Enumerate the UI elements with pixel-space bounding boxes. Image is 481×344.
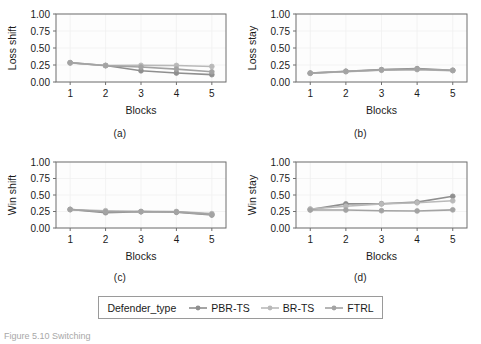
legend-entry-ftrl[interactable]: FTRL — [324, 302, 373, 314]
svg-text:3: 3 — [379, 88, 385, 99]
svg-text:4: 4 — [414, 88, 420, 99]
svg-text:0.75: 0.75 — [271, 173, 291, 184]
svg-text:0.00: 0.00 — [271, 223, 291, 234]
panel-b: 0.000.250.500.751.0012345BlocksLoss stay… — [240, 0, 481, 148]
svg-text:1.00: 1.00 — [271, 9, 291, 20]
legend-key-icon-1 — [260, 303, 280, 313]
svg-text:Blocks: Blocks — [366, 104, 397, 116]
svg-text:1.00: 1.00 — [271, 157, 291, 168]
svg-text:5: 5 — [209, 88, 215, 99]
svg-text:Win shift: Win shift — [6, 175, 18, 215]
svg-text:3: 3 — [138, 234, 144, 245]
svg-text:0.50: 0.50 — [31, 43, 51, 54]
svg-text:0.75: 0.75 — [271, 26, 291, 37]
figure-container: 0.000.250.500.751.0012345BlocksLoss shif… — [0, 0, 481, 344]
legend-wrap: Defender_type PBR-TS BR-TS FTRL — [0, 296, 481, 319]
svg-text:0.25: 0.25 — [31, 206, 51, 217]
panel-a: 0.000.250.500.751.0012345BlocksLoss shif… — [0, 0, 240, 148]
svg-text:Loss shift: Loss shift — [6, 26, 18, 70]
svg-text:0.75: 0.75 — [31, 26, 51, 37]
legend-label-0: PBR-TS — [211, 302, 250, 314]
svg-text:Win stay: Win stay — [246, 174, 258, 215]
svg-text:4: 4 — [414, 234, 420, 245]
figure-caption: Figure 5.10 Switching — [4, 331, 304, 343]
svg-text:4: 4 — [174, 234, 180, 245]
panel-a-tag: (a) — [0, 128, 240, 139]
svg-text:1.00: 1.00 — [31, 9, 51, 20]
svg-text:5: 5 — [209, 234, 215, 245]
legend-entry-pbr-ts[interactable]: PBR-TS — [188, 302, 250, 314]
svg-text:0.50: 0.50 — [31, 190, 51, 201]
svg-text:1: 1 — [307, 234, 313, 245]
legend: Defender_type PBR-TS BR-TS FTRL — [98, 296, 382, 319]
panel-c-tag: (c) — [0, 272, 240, 283]
svg-text:0.00: 0.00 — [31, 223, 51, 234]
chart-c: 0.000.250.500.751.0012345BlocksWin shift — [0, 148, 240, 274]
chart-d: 0.000.250.500.751.0012345BlocksWin stay — [240, 148, 481, 274]
legend-key-icon-2 — [324, 303, 344, 313]
svg-text:1: 1 — [67, 88, 73, 99]
panel-grid: 0.000.250.500.751.0012345BlocksLoss shif… — [0, 0, 481, 292]
legend-entry-br-ts[interactable]: BR-TS — [260, 302, 315, 314]
svg-text:0.75: 0.75 — [31, 173, 51, 184]
svg-text:2: 2 — [103, 88, 109, 99]
svg-text:5: 5 — [450, 88, 456, 99]
panel-c: 0.000.250.500.751.0012345BlocksWin shift… — [0, 148, 240, 292]
svg-text:4: 4 — [174, 88, 180, 99]
legend-key-icon-0 — [188, 303, 208, 313]
legend-title: Defender_type — [107, 302, 178, 314]
svg-text:1: 1 — [307, 88, 313, 99]
svg-text:Blocks: Blocks — [126, 104, 157, 116]
svg-text:0.50: 0.50 — [271, 43, 291, 54]
panel-b-tag: (b) — [240, 128, 481, 139]
svg-text:2: 2 — [343, 234, 349, 245]
svg-text:0.25: 0.25 — [271, 206, 291, 217]
panel-d: 0.000.250.500.751.0012345BlocksWin stay … — [240, 148, 481, 292]
svg-text:0.00: 0.00 — [31, 77, 51, 88]
svg-text:0.00: 0.00 — [271, 77, 291, 88]
svg-text:0.25: 0.25 — [271, 60, 291, 71]
svg-text:0.50: 0.50 — [271, 190, 291, 201]
legend-label-2: FTRL — [347, 302, 373, 314]
svg-text:Blocks: Blocks — [126, 250, 157, 262]
svg-text:5: 5 — [450, 234, 456, 245]
svg-text:3: 3 — [138, 88, 144, 99]
svg-text:1.00: 1.00 — [31, 157, 51, 168]
svg-text:0.25: 0.25 — [31, 60, 51, 71]
svg-text:Blocks: Blocks — [366, 250, 397, 262]
svg-text:Loss stay: Loss stay — [246, 25, 258, 70]
svg-text:2: 2 — [343, 88, 349, 99]
svg-text:2: 2 — [103, 234, 109, 245]
svg-text:1: 1 — [67, 234, 73, 245]
svg-text:3: 3 — [379, 234, 385, 245]
chart-a: 0.000.250.500.751.0012345BlocksLoss shif… — [0, 0, 240, 128]
legend-label-1: BR-TS — [283, 302, 315, 314]
panel-d-tag: (d) — [240, 272, 481, 283]
chart-b: 0.000.250.500.751.0012345BlocksLoss stay — [240, 0, 481, 128]
